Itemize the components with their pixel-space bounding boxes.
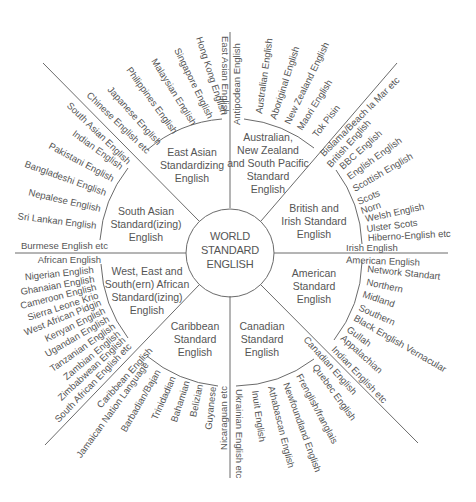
svg-text:and South Pacific: and South Pacific bbox=[227, 157, 309, 169]
svg-text:English: English bbox=[129, 231, 164, 243]
variety-label: Burmese English etc bbox=[21, 240, 108, 251]
svg-text:Standard: Standard bbox=[241, 333, 284, 345]
variety-label: Philippines English bbox=[124, 65, 180, 136]
svg-text:Canadian: Canadian bbox=[240, 320, 285, 332]
sector-title-canadian: Canadian Standard English bbox=[240, 320, 285, 358]
variety-label: Inuit English bbox=[250, 390, 268, 443]
svg-text:South Asian: South Asian bbox=[118, 205, 174, 217]
sector-title-caribbean: Caribbean Standard English bbox=[171, 320, 220, 358]
svg-text:Standardizing: Standardizing bbox=[160, 159, 224, 171]
svg-text:West, East and: West, East and bbox=[111, 265, 182, 277]
svg-text:Standard: Standard bbox=[174, 333, 217, 345]
svg-text:Standard: Standard bbox=[293, 280, 336, 292]
variety-label: Antipodean English bbox=[231, 43, 242, 125]
variety-label: Nicaraguan etc bbox=[218, 386, 229, 450]
sector-title-australian: Australian, New Zealand and South Pacifi… bbox=[227, 131, 309, 195]
svg-text:East Asian: East Asian bbox=[167, 146, 217, 158]
sector-title-east-asian: East Asian Standardizing English bbox=[160, 146, 224, 184]
svg-text:Australian,: Australian, bbox=[243, 131, 293, 143]
svg-text:New Zealand: New Zealand bbox=[237, 144, 299, 156]
svg-text:English: English bbox=[130, 304, 165, 316]
svg-text:English: English bbox=[178, 346, 213, 358]
sector-title-south-asian: South Asian Standard(izing) English bbox=[110, 205, 181, 243]
sector-title-british-irish: British and Irish Standard English bbox=[281, 202, 347, 240]
svg-text:English: English bbox=[251, 183, 286, 195]
svg-text:English: English bbox=[297, 228, 332, 240]
svg-text:Standard: Standard bbox=[247, 170, 290, 182]
svg-text:English: English bbox=[245, 346, 280, 358]
world-standard-english-diagram: WORLD STANDARD ENGLISH East Asian Standa… bbox=[0, 0, 476, 502]
sector-title-american: American Standard English bbox=[292, 267, 337, 305]
variety-label: Sri Lankan English bbox=[17, 210, 97, 231]
svg-text:Standard(izing): Standard(izing) bbox=[111, 291, 182, 303]
svg-text:Irish Standard: Irish Standard bbox=[281, 215, 347, 227]
center-title-line-2: STANDARD bbox=[201, 244, 259, 256]
svg-text:American: American bbox=[292, 267, 337, 279]
svg-text:English: English bbox=[297, 293, 332, 305]
svg-text:Standard(izing): Standard(izing) bbox=[110, 218, 181, 230]
variety-label: Irish English bbox=[346, 242, 398, 253]
variety-label: Guyanese bbox=[203, 386, 218, 430]
center-title-line-3: ENGLISH bbox=[207, 258, 254, 270]
svg-text:Caribbean: Caribbean bbox=[171, 320, 220, 332]
svg-text:English: English bbox=[175, 172, 210, 184]
center-title-line-1: WORLD bbox=[210, 230, 250, 242]
variety-label: Ukrainian English etc bbox=[234, 389, 245, 478]
svg-text:South(ern) African: South(ern) African bbox=[105, 278, 190, 290]
svg-text:British and: British and bbox=[289, 202, 339, 214]
